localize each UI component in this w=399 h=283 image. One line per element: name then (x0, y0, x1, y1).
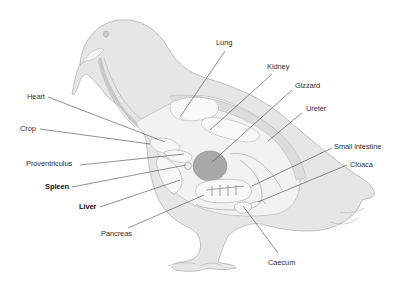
label-small-intestine: Small intestine (334, 143, 381, 151)
label-cloaca: Cloaca (350, 161, 373, 169)
label-gizzard: Gizzard (295, 82, 320, 90)
gizzard (193, 151, 227, 181)
label-crop: Crop (20, 125, 36, 133)
label-kidney: Kidney (267, 63, 289, 71)
small-intestine (196, 179, 252, 202)
pigeon-anatomy-diagram: Lung Kidney Gizzard Ureter Heart Crop Sm… (0, 0, 399, 283)
label-lung: Lung (216, 39, 232, 47)
label-pancreas: Pancreas (101, 230, 132, 238)
label-spleen: Spleen (45, 183, 69, 191)
lung (170, 97, 219, 121)
leader-crop (40, 129, 150, 144)
label-heart: Heart (27, 93, 45, 101)
label-proventriculus: Proventriculus (26, 160, 72, 168)
caecum (234, 202, 251, 213)
label-liver: Liver (79, 203, 96, 211)
label-ureter: Ureter (306, 105, 326, 113)
eye-icon (104, 31, 109, 37)
label-caecum: Caecum (268, 259, 295, 267)
spleen (185, 163, 192, 170)
